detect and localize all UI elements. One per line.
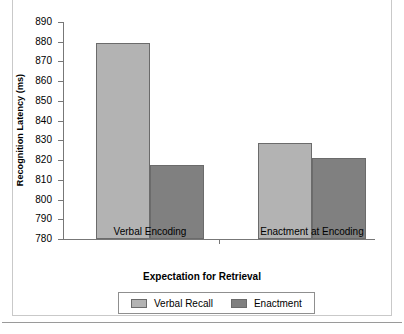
y-axis-title: Recognition Latency (ms) bbox=[12, 60, 28, 200]
y-axis-tick-label: 780 bbox=[35, 233, 52, 244]
y-axis-tick: 860 bbox=[58, 81, 63, 82]
y-axis-tick-label: 860 bbox=[35, 75, 52, 86]
y-axis-tick-label: 810 bbox=[35, 174, 52, 185]
legend-swatch-icon bbox=[231, 299, 247, 308]
x-axis-category-label: Enactment at Encoding bbox=[222, 226, 402, 237]
x-axis-title: Expectation for Retrieval bbox=[0, 271, 404, 282]
y-axis-tick-label: 850 bbox=[35, 95, 52, 106]
y-axis-line bbox=[63, 22, 64, 239]
legend-item: Verbal Recall bbox=[131, 298, 213, 309]
y-axis-tick-label: 840 bbox=[35, 115, 52, 126]
x-axis-category-label: Verbal Encoding bbox=[60, 226, 240, 237]
y-axis-tick-label: 820 bbox=[35, 154, 52, 165]
bar-chart-figure: Recognition Latency (ms) 890880870860850… bbox=[0, 0, 404, 334]
bottom-divider-rule bbox=[2, 322, 402, 323]
y-axis-title-text: Recognition Latency (ms) bbox=[15, 74, 25, 186]
y-axis-tick: 850 bbox=[58, 101, 63, 102]
y-axis-tick-label: 880 bbox=[35, 36, 52, 47]
y-axis-tick: 880 bbox=[58, 42, 63, 43]
y-axis-tick: 830 bbox=[58, 140, 63, 141]
legend-swatch-icon bbox=[131, 299, 147, 308]
y-axis-tick-label: 870 bbox=[35, 55, 52, 66]
y-axis-tick: 790 bbox=[58, 219, 63, 220]
y-axis-tick: 780 bbox=[58, 239, 63, 240]
chart-legend: Verbal RecallEnactment bbox=[118, 292, 315, 314]
y-axis-tick-label: 890 bbox=[35, 16, 52, 27]
x-axis-category-separator-tick bbox=[219, 239, 220, 244]
legend-label: Enactment bbox=[254, 298, 302, 309]
y-axis-tick: 870 bbox=[58, 61, 63, 62]
legend-item: Enactment bbox=[231, 298, 302, 309]
y-axis-tick: 840 bbox=[58, 121, 63, 122]
y-axis-tick-label: 800 bbox=[35, 194, 52, 205]
y-axis-tick-label: 790 bbox=[35, 213, 52, 224]
y-axis-tick: 800 bbox=[58, 200, 63, 201]
bar-verbal-recall-enactment-at-encoding bbox=[258, 143, 312, 239]
legend-label: Verbal Recall bbox=[154, 298, 213, 309]
y-axis-tick: 810 bbox=[58, 180, 63, 181]
plot-area: 890880870860850840830820810800790780 bbox=[63, 22, 375, 239]
bar-verbal-recall-verbal-encoding bbox=[96, 43, 150, 239]
y-axis-tick: 890 bbox=[58, 22, 63, 23]
y-axis-tick: 820 bbox=[58, 160, 63, 161]
y-axis-tick-label: 830 bbox=[35, 134, 52, 145]
